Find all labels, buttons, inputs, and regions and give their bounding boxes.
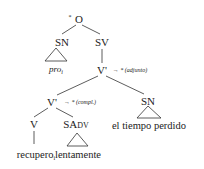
node-o: O bbox=[75, 14, 83, 25]
tree-edges bbox=[0, 0, 204, 169]
leaf-el-tiempo-perdido: el tiempo perdido bbox=[112, 120, 186, 131]
node-sv: SV bbox=[95, 37, 109, 48]
node-sn-object: SN bbox=[141, 96, 155, 107]
node-vbar-low: V' bbox=[47, 97, 57, 108]
leaf-pro: proi bbox=[49, 64, 63, 78]
node-sn-subject: SN bbox=[55, 37, 69, 48]
node-vbar-top: V' bbox=[97, 65, 107, 76]
leaf-lentamente: lentamente bbox=[55, 149, 101, 160]
annotation-adjunto: → * (adjunto) bbox=[113, 67, 147, 73]
node-sadv: SADV bbox=[63, 119, 89, 131]
annotation-compl: → * (compl.) bbox=[64, 99, 96, 105]
leaf-recupero: recuperoi bbox=[17, 149, 55, 164]
node-v: V bbox=[30, 119, 38, 130]
ungrammatical-mark: * bbox=[69, 14, 72, 20]
